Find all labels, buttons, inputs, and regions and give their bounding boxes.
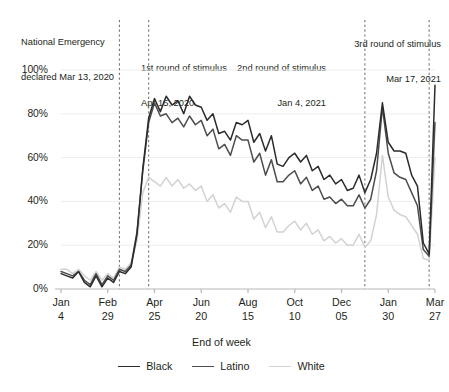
legend-item-white[interactable]: White [269, 360, 324, 372]
legend-label: White [297, 360, 324, 372]
series-line-white [61, 155, 435, 280]
chart-legend: BlackLatinoWhite [0, 360, 443, 372]
legend-label: Latino [220, 360, 249, 372]
legend-item-latino[interactable]: Latino [192, 360, 249, 372]
legend-swatch-latino [192, 366, 214, 367]
legend-swatch-black [118, 366, 140, 367]
legend-item-black[interactable]: Black [118, 360, 172, 372]
legend-swatch-white [269, 366, 291, 367]
legend-label: Black [146, 360, 172, 372]
x-axis-title: End of week [0, 336, 443, 348]
